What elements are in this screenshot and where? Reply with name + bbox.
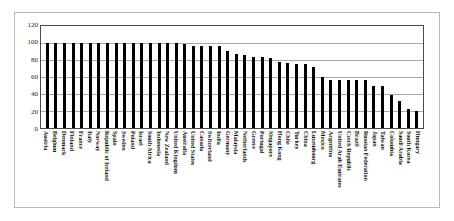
bar [89,43,92,128]
x-axis-tick-label: Republic of Ireland [104,131,110,181]
bar [398,101,401,128]
x-axis-tick-label: Turkey [294,131,300,149]
y-axis-tick-label: 100 [28,39,39,46]
x-axis-tick: Sweden [120,131,129,209]
bar-slot [172,26,181,128]
y-axis-tick-label: 20 [31,108,38,115]
bar [372,86,375,129]
bar [175,43,178,128]
x-axis-tick-label: Taiwan [380,131,386,150]
bar [269,58,272,128]
bar-slot [352,26,361,128]
x-axis-tick: Mexico [319,131,328,209]
bar-slot [378,26,387,128]
x-axis-tick-label: Italy [87,131,93,143]
x-axis-tick: Chile [284,131,293,209]
x-axis-tick: Denmark [59,131,68,209]
bar-slot [258,26,267,128]
x-axis-tick: Australia [180,131,189,209]
x-axis-tick: United Kingdom [172,131,181,209]
bar-slot [344,26,353,128]
bar-slot [155,26,164,128]
x-axis-tick-label: Brazil [354,131,360,147]
bar [243,55,246,128]
x-axis-tick: Austria [42,131,51,209]
bar [72,43,75,128]
x-axis-tick-label: Argentina [328,131,334,157]
x-axis-tick: Taiwan [379,131,388,209]
x-axis-tick-label: Spain [112,131,118,146]
x-axis-tick: Luxembourg [310,131,319,209]
x-axis-tick-label: United Kingdom [173,131,179,174]
x-axis-tick: Greece [249,131,258,209]
bar-slot [292,26,301,128]
bar [304,64,307,128]
x-axis-tick: Japan [370,131,379,209]
x-axis-tick-label: Israel [138,131,144,146]
bar-slot [146,26,155,128]
x-axis-tick-label: South Korea [406,131,412,163]
bar [347,80,350,128]
bar-chart: 020406080100120 AustriaBelgiumDenmarkFin… [0,0,454,221]
x-axis-tick: Republic of Ireland [102,131,111,209]
x-axis-tick-label: Russian Federation [363,131,369,181]
bar-slot [215,26,224,128]
bar [54,43,57,128]
x-axis-tick: Czech Republic [344,131,353,209]
x-axis-tick: Spain [111,131,120,209]
bar-slot [112,26,121,128]
bar [407,109,410,128]
bar-slot [395,26,404,128]
bar-slot [404,26,413,128]
x-axis-tick: New Zealand [163,131,172,209]
bar [295,64,298,128]
x-axis-tick-label: South Africa [147,131,153,164]
bar [132,43,135,128]
x-axis-tick: Switzerland [206,131,215,209]
bar-slot [232,26,241,128]
bar-series [41,26,423,128]
x-axis-tick: Norway [94,131,103,209]
x-axis-tick: Canada [198,131,207,209]
x-axis-tick-label: United States [190,131,196,165]
x-axis-tick-label: Saudi Arabia [398,131,404,165]
x-axis-tick: Saudi Arabia [396,131,405,209]
x-axis-tick: United Arab Emirates [336,131,345,209]
bar-slot [318,26,327,128]
x-axis-tick: Colombia [388,131,397,209]
bar-slot [120,26,129,128]
bar-slot [249,26,258,128]
bar [166,43,169,128]
x-axis-tick-label: Indonesia [156,131,162,156]
x-axis-tick: Finland [68,131,77,209]
bar [364,80,367,128]
bar [261,57,264,128]
x-axis-tick: Russian Federation [362,131,371,209]
x-axis-tick-label: Switzerland [207,131,213,162]
bar [200,46,203,128]
x-axis-tick: Poland [128,131,137,209]
bar-slot [335,26,344,128]
bar-slot [387,26,396,128]
bar [226,51,229,128]
x-axis-tick: Germany [223,131,232,209]
bar [149,43,152,128]
x-axis-tick: Belgium [51,131,60,209]
bar [329,80,332,128]
bar-slot [181,26,190,128]
bar-slot [103,26,112,128]
x-axis-tick: Indonesia [154,131,163,209]
bar [158,43,161,128]
x-axis-tick: Italy [85,131,94,209]
x-axis-tick-label: Denmark [61,131,67,155]
y-axis-tick-label: 0 [35,126,39,133]
bar-slot [69,26,78,128]
bar [218,46,221,128]
x-axis-tick-label: Canada [199,131,205,151]
bar-slot [163,26,172,128]
bar-slot [60,26,69,128]
x-axis-tick-label: Singapore [268,131,274,157]
x-axis-tick-label: Malaysia [233,131,239,154]
bar [80,43,83,128]
bar-slot [361,26,370,128]
